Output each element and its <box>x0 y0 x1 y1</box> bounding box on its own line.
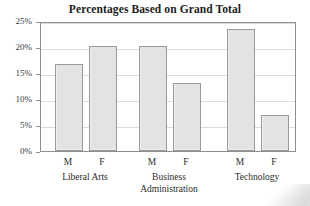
y-axis: 0%5%10%15%20%25% <box>0 0 40 206</box>
y-tick-label: 20% <box>0 43 32 52</box>
group-label-line: Technology <box>207 172 307 184</box>
y-tick-label: 10% <box>0 95 32 104</box>
x-axis: MFLiberal ArtsMFBusinessAdministrationMF… <box>40 152 296 206</box>
y-tick-label: 5% <box>0 121 32 130</box>
bar-chart-figure: Percentages Based on Grand Total 0%5%10%… <box>0 0 310 206</box>
bar <box>173 83 201 151</box>
group-label-line: Administration <box>119 184 219 196</box>
bar <box>55 64 83 151</box>
y-tick-label: 0% <box>0 147 32 156</box>
y-tick-label: 15% <box>0 69 32 78</box>
bar <box>89 46 117 151</box>
x-tick-label: F <box>166 157 206 168</box>
chart-title: Percentages Based on Grand Total <box>0 3 310 15</box>
x-tick-label: F <box>254 157 294 168</box>
y-tick-label: 25% <box>0 17 32 26</box>
bar-series <box>41 23 295 151</box>
x-tick-label: F <box>82 157 122 168</box>
group-label-line: Business <box>119 172 219 184</box>
bar <box>227 29 255 151</box>
group-label: Technology <box>207 172 307 184</box>
bar <box>261 115 289 151</box>
bar <box>139 46 167 151</box>
group-label: BusinessAdministration <box>119 172 219 195</box>
plot-area <box>40 22 296 152</box>
